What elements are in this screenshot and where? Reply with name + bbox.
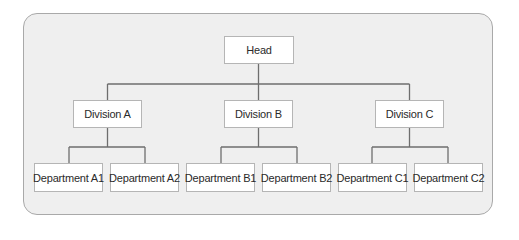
node-label: Department B2 — [261, 172, 332, 184]
node-division-a: Division A — [73, 100, 142, 128]
node-label: Department A1 — [33, 172, 104, 184]
node-label: Division A — [84, 108, 130, 120]
node-department-b2: Department B2 — [262, 163, 331, 192]
node-label: Department B1 — [185, 172, 256, 184]
node-department-a1: Department A1 — [34, 163, 103, 192]
node-label: Department C1 — [337, 172, 409, 184]
node-department-c2: Department C2 — [414, 163, 483, 192]
node-division-c: Division C — [375, 100, 444, 128]
node-department-b1: Department B1 — [186, 163, 255, 192]
node-label: Division B — [235, 108, 282, 120]
node-label: Division C — [386, 108, 434, 120]
node-department-c1: Department C1 — [338, 163, 407, 192]
node-label: Department C2 — [413, 172, 485, 184]
node-division-b: Division B — [224, 100, 293, 128]
node-label: Head — [246, 44, 272, 56]
node-head: Head — [224, 36, 294, 64]
node-label: Department A2 — [109, 172, 180, 184]
node-department-a2: Department A2 — [110, 163, 179, 192]
